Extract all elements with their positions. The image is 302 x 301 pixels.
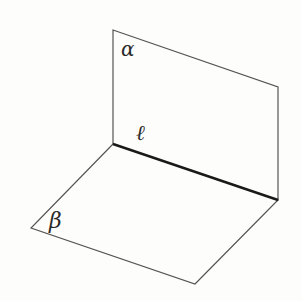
plane-alpha xyxy=(113,30,278,200)
plane-beta-label: β xyxy=(48,208,62,233)
plane-alpha-label: α xyxy=(121,37,135,61)
intersection-line-l xyxy=(113,144,278,200)
dihedral-angle-diagram: α ℓ β xyxy=(0,0,302,301)
line-l-label: ℓ xyxy=(136,121,145,145)
plane-beta xyxy=(31,144,278,284)
diagram-canvas: α ℓ β xyxy=(0,0,302,301)
